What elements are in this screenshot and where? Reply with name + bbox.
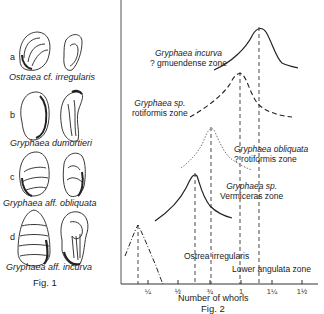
tick-label-one-half: 1½ bbox=[297, 287, 307, 296]
specimen-c-drawing bbox=[20, 152, 86, 197]
specimen-b-letter: b bbox=[10, 110, 15, 120]
tick-label-one-quarter: 1¼ bbox=[267, 287, 277, 296]
label-rotiformis: Gryphaea sp. rotiformis zone bbox=[132, 98, 188, 118]
figure-2-caption: Fig. 2 bbox=[201, 303, 225, 314]
specimen-b-drawing bbox=[21, 91, 83, 141]
x-axis-label: Number of whorls bbox=[178, 293, 249, 303]
specimen-a-drawing bbox=[20, 32, 82, 70]
figure-1-specimens: a Ostraea cf. irregularis b Gryphaea dum… bbox=[0, 0, 112, 314]
figure-2-chart: Gryphaea incurva ? gmuendense zone Gryph… bbox=[112, 0, 324, 314]
label-vermiceras: Gryphaea sp. Vermiceras zone bbox=[220, 181, 283, 201]
tick-label-quarter: ¼ bbox=[145, 287, 151, 296]
specimen-d-label: Gryphaea aff. incurva bbox=[6, 262, 92, 272]
curve-rotiformis bbox=[190, 73, 292, 117]
label-ostrea-species: Ostrea irregularis bbox=[184, 251, 249, 261]
specimen-d-letter: d bbox=[10, 232, 15, 242]
specimen-a-label: Ostraea cf. irregularis bbox=[9, 72, 95, 82]
label-obliquata: Gryphaea obliquata ? rotiformis zone bbox=[234, 144, 308, 164]
specimen-c-label: Gryphaea aff. obliquata bbox=[3, 198, 97, 208]
label-incurva: Gryphaea incurva ? gmuendense zone bbox=[150, 48, 227, 68]
specimen-b-label: Gryphaea dumortieri bbox=[10, 138, 92, 148]
specimen-a-letter: a bbox=[10, 52, 15, 62]
figure-1-caption: Fig. 1 bbox=[33, 277, 57, 288]
x-axis-ticks bbox=[148, 280, 302, 284]
curve-ostrea bbox=[125, 225, 163, 284]
label-ostrea-zone: Lower angulata zone bbox=[232, 264, 311, 274]
specimen-c-letter: c bbox=[10, 172, 15, 182]
specimen-d-drawing bbox=[18, 210, 88, 266]
